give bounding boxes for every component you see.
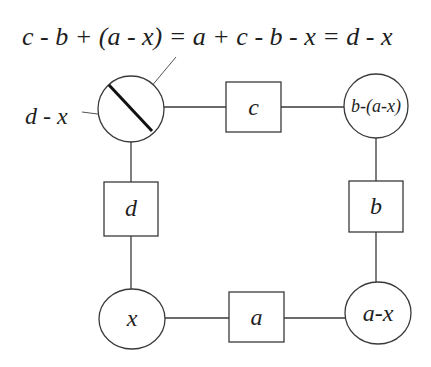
node-top-right: b-(a-x) bbox=[344, 74, 408, 138]
label-x: x bbox=[126, 305, 138, 331]
label-a: a bbox=[251, 304, 263, 330]
node-bottom-middle: a bbox=[229, 292, 284, 342]
label-a-minus-x: a-x bbox=[363, 300, 394, 326]
label-b: b bbox=[370, 193, 382, 219]
label-b-minus-a-minus-x: b-(a-x) bbox=[351, 96, 401, 117]
node-middle-right: b bbox=[349, 181, 403, 232]
equation-text: c - b + (a - x) = a + c - b - x = d - x bbox=[22, 22, 393, 51]
node-bottom-right: a-x bbox=[345, 282, 411, 344]
label-c: c bbox=[248, 94, 259, 120]
node-middle-left: d bbox=[104, 182, 158, 236]
cycle-diagram: c - b + (a - x) = a + c - b - x = d - x … bbox=[0, 0, 431, 367]
node-top-left bbox=[98, 76, 164, 142]
label-d: d bbox=[125, 195, 138, 221]
edges bbox=[131, 107, 376, 318]
node-bottom-left: x bbox=[99, 289, 165, 349]
node-top-middle: c bbox=[226, 82, 281, 132]
side-label-text: d - x bbox=[25, 103, 68, 129]
